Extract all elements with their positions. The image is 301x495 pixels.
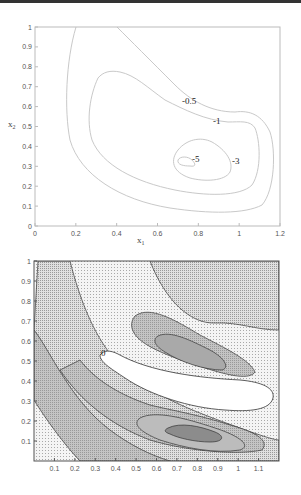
y-tick-label: 0.6 — [21, 338, 31, 345]
x-tick-label: 0.8 — [192, 465, 202, 472]
bottom-filled-contour-plot: 0.10.20.30.40.50.60.70.80.911.10.10.20.3… — [0, 0, 301, 495]
y-tick-label: 1 — [27, 258, 31, 265]
y-tick-label: 0.9 — [21, 278, 31, 285]
y-tick-label: 0.4 — [21, 378, 31, 385]
x-tick-label: 0.9 — [213, 465, 223, 472]
x-tick-label: 0.1 — [50, 465, 60, 472]
x-tick-label: 0.3 — [90, 465, 100, 472]
bottom-plot-fills — [34, 261, 279, 461]
y-tick-label: 0.7 — [21, 318, 31, 325]
x-tick-label: 0.7 — [172, 465, 182, 472]
y-tick-label: 0.3 — [21, 398, 31, 405]
y-tick-label: 0.2 — [21, 418, 31, 425]
x-tick-label: 0.5 — [131, 465, 141, 472]
y-tick-label: 0.1 — [21, 438, 31, 445]
x-tick-label: 0.4 — [111, 465, 121, 472]
x-tick-label: 0.6 — [152, 465, 162, 472]
y-tick-label: 0.8 — [21, 298, 31, 305]
x-tick-label: 1.1 — [254, 465, 264, 472]
y-tick-label: 0.5 — [21, 358, 31, 365]
x-tick-label: 1 — [236, 465, 240, 472]
contour-label-zero: 0 — [101, 348, 106, 358]
x-tick-label: 0.2 — [70, 465, 80, 472]
